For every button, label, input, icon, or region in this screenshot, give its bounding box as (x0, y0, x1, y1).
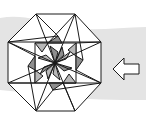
octagon-figure (8, 14, 101, 111)
diagram-canvas (0, 0, 146, 123)
